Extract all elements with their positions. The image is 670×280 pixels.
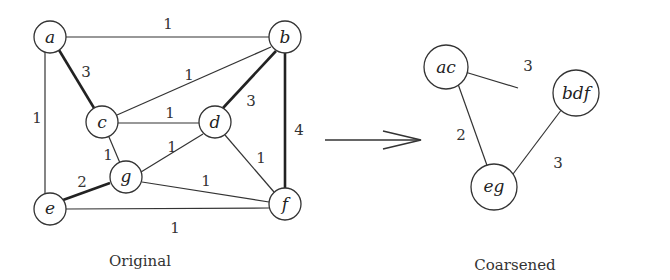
weight-e-f: 1: [170, 219, 180, 237]
weight-a-b: 1: [163, 15, 173, 33]
node-a: a: [34, 21, 66, 53]
node-c: c: [86, 106, 118, 138]
coarsened-caption: Coarsened: [474, 256, 556, 274]
weight-c-d: 1: [165, 104, 175, 122]
weight-d-g: 1: [167, 138, 177, 156]
weight-b-c: 1: [184, 66, 194, 84]
coarsened-graph: 3 2 3 ac bdf eg Coarsened: [424, 45, 599, 274]
weight-g-f: 1: [201, 172, 211, 190]
arrow-icon: [325, 131, 421, 149]
node-d: d: [199, 106, 231, 138]
svg-text:c: c: [97, 112, 107, 132]
weight-d-f: 1: [256, 149, 266, 167]
svg-text:g: g: [121, 166, 132, 186]
graph-coarsening-diagram: 1 3 1 1 3 4 1 1 1 1 2 1 1 a b: [0, 0, 670, 280]
node-f: f: [269, 188, 301, 220]
weight-eg-bdf: 3: [553, 154, 563, 172]
node-eg: eg: [471, 164, 517, 210]
node-ac: ac: [424, 45, 468, 89]
node-e: e: [34, 193, 66, 225]
node-b: b: [269, 21, 301, 53]
weight-b-f: 4: [294, 121, 304, 139]
svg-text:d: d: [210, 112, 221, 132]
svg-text:bdf: bdf: [562, 83, 593, 103]
weight-b-d: 3: [246, 92, 256, 110]
svg-text:eg: eg: [484, 176, 505, 196]
weight-a-e: 1: [32, 109, 42, 127]
weight-ac-bdf: 3: [523, 57, 533, 75]
edge-d-f: [225, 135, 274, 192]
weight-a-c: 3: [81, 63, 91, 81]
node-bdf: bdf: [553, 70, 599, 116]
weight-c-g: 1: [103, 146, 113, 164]
weight-g-e: 2: [77, 173, 87, 191]
original-caption: Original: [109, 252, 171, 270]
svg-text:e: e: [45, 198, 55, 218]
edge-e-f: [66, 208, 269, 209]
edge-ac-bdf: [465, 72, 518, 88]
weight-ac-eg: 2: [456, 126, 466, 144]
node-g: g: [110, 161, 142, 193]
svg-text:b: b: [280, 27, 291, 47]
svg-text:a: a: [45, 27, 55, 47]
svg-text:ac: ac: [436, 57, 456, 77]
original-graph: 1 3 1 1 3 4 1 1 1 1 2 1 1 a b: [32, 15, 304, 270]
